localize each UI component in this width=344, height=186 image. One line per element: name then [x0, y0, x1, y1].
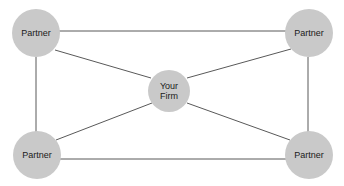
edge-firm-bottomleft: [56, 103, 152, 140]
edge-firm-bottomright: [187, 103, 290, 140]
node-your-firm[interactable]: [148, 70, 190, 112]
edge-firm-topleft: [55, 50, 151, 78]
node-group: [12, 9, 333, 179]
diagram-canvas: Partner Partner Your Firm Partner Partne…: [0, 0, 344, 186]
node-partner-top-left[interactable]: [12, 9, 60, 57]
node-partner-bottom-right[interactable]: [285, 131, 333, 179]
edge-firm-topright: [187, 49, 291, 78]
network-diagram-svg: [0, 0, 344, 186]
node-partner-bottom-left[interactable]: [13, 131, 61, 179]
node-partner-top-right[interactable]: [285, 9, 333, 57]
